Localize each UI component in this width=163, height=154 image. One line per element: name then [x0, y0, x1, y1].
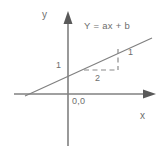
origin-label: 0,0 [72, 96, 85, 106]
x-axis-arrowhead [143, 90, 156, 99]
rise-label: 1 [128, 47, 133, 57]
y-axis-label: y [42, 10, 47, 20]
linear-function-diagram: y x 0,0 Y = ax + b 1 1 2 [0, 0, 163, 154]
equation-label: Y = ax + b [84, 21, 130, 31]
run-label: 2 [95, 73, 100, 83]
graph-canvas [0, 0, 163, 154]
y-axis-arrowhead [64, 11, 73, 24]
x-axis-label: x [140, 111, 145, 121]
y-intercept-label: 1 [56, 60, 61, 70]
